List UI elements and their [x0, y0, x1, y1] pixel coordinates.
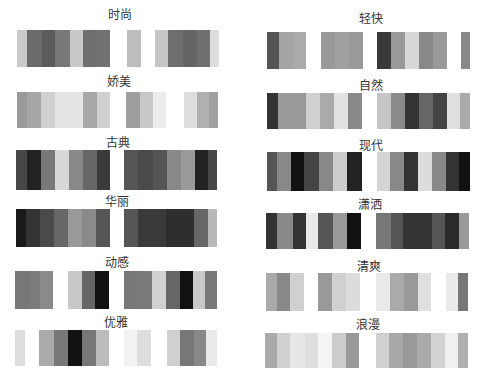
color-swatch [180, 271, 193, 309]
color-swatch [391, 213, 403, 249]
color-swatch [137, 271, 152, 309]
color-swatch [153, 150, 167, 190]
color-swatch [95, 271, 109, 309]
color-swatch [304, 152, 319, 191]
palette-title: 古典 [106, 137, 131, 150]
color-swatch [152, 271, 166, 309]
color-swatch [419, 32, 433, 69]
color-swatch [210, 30, 219, 67]
color-swatch [54, 330, 68, 366]
color-swatch [445, 213, 459, 249]
color-swatch [167, 330, 180, 366]
palette-title: 现代 [359, 140, 384, 153]
color-stripes [0, 0, 481, 381]
color-swatch [389, 333, 403, 368]
color-swatch [446, 152, 459, 191]
color-swatch [195, 150, 208, 190]
color-swatch [333, 213, 347, 249]
color-stripes [0, 0, 481, 381]
color-swatch [459, 213, 469, 249]
color-swatch [16, 150, 27, 190]
color-swatch [404, 273, 418, 311]
color-swatch [70, 30, 83, 67]
color-swatch [68, 271, 82, 309]
color-swatch [377, 32, 391, 69]
color-swatch [459, 152, 470, 191]
color-swatch [29, 271, 40, 309]
color-swatch [83, 150, 97, 190]
color-swatch [433, 32, 447, 69]
color-swatch [293, 32, 306, 69]
color-swatch [418, 152, 432, 191]
color-swatch [377, 93, 391, 129]
color-swatch [55, 92, 83, 128]
color-swatch [319, 152, 333, 191]
color-swatch [306, 93, 320, 129]
palette-title: 轻快 [359, 13, 384, 26]
color-swatch [82, 271, 95, 309]
color-stripes [0, 0, 481, 381]
color-swatch [205, 271, 217, 309]
color-swatch [405, 32, 419, 69]
color-swatch [346, 273, 360, 311]
color-swatch [390, 152, 404, 191]
color-swatch [197, 30, 210, 67]
palette-title: 优雅 [104, 317, 129, 330]
palette-title: 潇洒 [358, 199, 383, 212]
palette-title: 娇美 [107, 76, 132, 89]
color-swatch [96, 330, 109, 366]
color-swatch [432, 213, 445, 249]
color-swatch [68, 330, 82, 366]
color-swatch [277, 273, 290, 311]
color-swatch [318, 273, 332, 311]
palette-natural: 自然 [0, 0, 481, 381]
color-swatch [347, 213, 361, 249]
color-swatch [266, 213, 277, 249]
color-swatch [458, 333, 468, 368]
color-swatch [180, 330, 194, 366]
color-swatch [124, 271, 137, 309]
color-swatch [82, 330, 96, 366]
color-swatch [184, 92, 197, 128]
palette-title: 清爽 [357, 261, 382, 274]
color-swatch [15, 271, 29, 309]
color-swatch [265, 333, 277, 368]
color-swatch [376, 333, 389, 368]
color-swatch [208, 150, 217, 190]
color-swatch [348, 93, 362, 129]
palette-modern: 现代 [0, 0, 481, 381]
color-swatch [277, 213, 293, 249]
color-swatch [124, 150, 138, 190]
color-swatch [461, 32, 470, 69]
color-swatch [69, 150, 83, 190]
color-swatch [27, 92, 41, 128]
color-swatch [318, 333, 332, 368]
palette-gorgeous: 华丽 [0, 0, 481, 381]
color-swatch [405, 93, 419, 129]
color-swatch [391, 93, 405, 129]
color-swatch [419, 93, 433, 129]
color-swatch [346, 333, 359, 368]
color-swatch [54, 209, 68, 247]
color-stripes [0, 0, 481, 381]
color-swatch [445, 333, 458, 368]
color-swatch [266, 273, 277, 311]
color-swatch [349, 32, 363, 69]
color-swatch [417, 333, 431, 368]
color-swatch [458, 273, 468, 311]
color-swatch [193, 271, 205, 309]
color-swatch [206, 330, 217, 366]
color-swatch [334, 93, 348, 129]
color-swatch [376, 273, 390, 311]
color-swatch [403, 213, 432, 249]
palette-title: 华丽 [105, 196, 130, 209]
color-swatch [153, 92, 166, 128]
color-swatch [39, 330, 54, 366]
color-swatch [291, 152, 304, 191]
color-swatch [155, 30, 168, 67]
color-swatch [446, 273, 458, 311]
color-swatch [16, 209, 26, 247]
color-swatch [332, 273, 346, 311]
color-swatch [41, 150, 55, 190]
color-swatch [138, 150, 153, 190]
